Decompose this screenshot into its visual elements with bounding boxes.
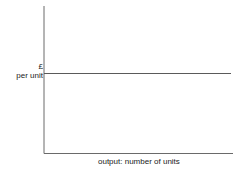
chart-canvas [0, 0, 246, 171]
x-axis-label: output: number of units [98, 157, 180, 166]
y-axis-label: £ per unit [16, 62, 43, 80]
y-axis-label-unit: per unit [16, 71, 43, 80]
y-axis-label-currency: £ [16, 62, 43, 71]
